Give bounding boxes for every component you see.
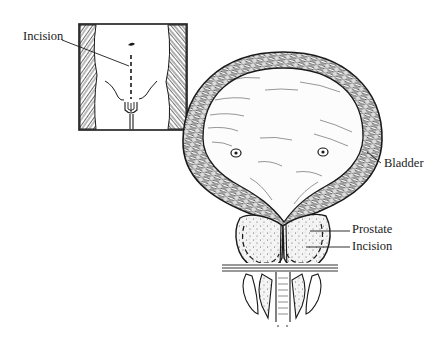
inset-abdomen-view <box>79 24 187 130</box>
inset-incision-label: Incision <box>23 30 63 43</box>
illustration-canvas: Incision Bladder Prostate Incision <box>0 0 448 350</box>
ureteral-orifice-right <box>318 148 328 156</box>
anatomy-drawing <box>0 0 448 350</box>
ureteral-orifice-left <box>231 149 241 157</box>
bladder-illustration <box>183 52 382 226</box>
pelvic-floor <box>222 263 338 272</box>
prostate-incision-label: Incision <box>352 240 392 253</box>
bladder-label: Bladder <box>384 157 424 170</box>
penile-structures <box>243 272 321 327</box>
prostate-label: Prostate <box>352 223 392 236</box>
